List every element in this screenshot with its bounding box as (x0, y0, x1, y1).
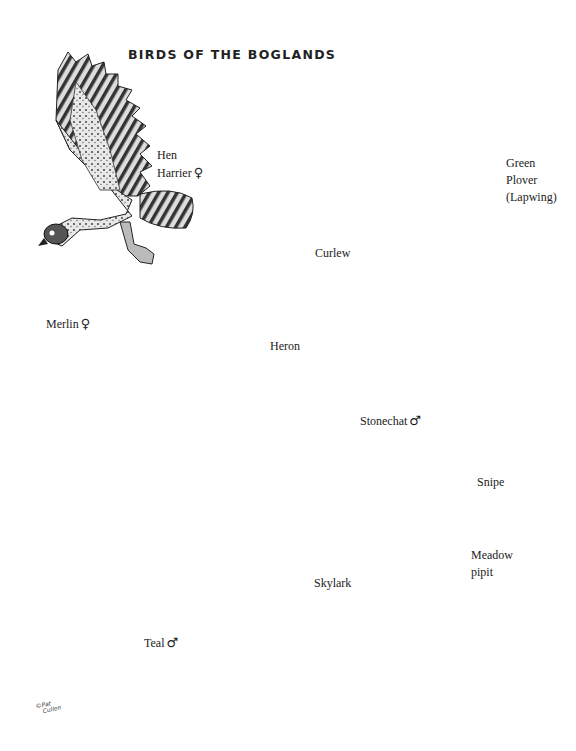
label-hen-harrier: Hen Harrier♀ (157, 147, 203, 182)
male-symbol-icon: ♂ (166, 635, 178, 650)
label-curlew: Curlew (315, 245, 350, 262)
label-meadow-pipit: Meadow pipit (471, 547, 513, 581)
female-symbol-icon: ♀ (194, 165, 204, 180)
label-line: Plover (506, 172, 557, 189)
label-merlin: Merlin♀ (46, 315, 90, 333)
label-line: Merlin (46, 317, 79, 331)
label-line: Curlew (315, 246, 350, 260)
label-teal: Teal♂ (144, 634, 178, 652)
label-line: Heron (270, 339, 300, 353)
illustration-canvas (0, 0, 576, 751)
label-line: Snipe (477, 475, 504, 489)
label-line: pipit (471, 564, 513, 581)
label-line: Skylark (314, 576, 351, 590)
label-line: (Lapwing) (506, 189, 557, 206)
male-symbol-icon: ♂ (409, 413, 421, 428)
label-heron: Heron (270, 338, 300, 355)
label-skylark: Skylark (314, 575, 351, 592)
label-green-plover: Green Plover (Lapwing) (506, 155, 557, 206)
label-line: Harrier (157, 166, 192, 180)
label-line: Meadow (471, 547, 513, 564)
label-line: Hen (157, 147, 203, 164)
label-line: Teal (144, 636, 164, 650)
label-stonechat: Stonechat♂ (360, 412, 421, 430)
label-line: Stonechat (360, 414, 407, 428)
label-snipe: Snipe (477, 474, 504, 491)
female-symbol-icon: ♀ (81, 316, 91, 331)
label-line: Green (506, 155, 557, 172)
